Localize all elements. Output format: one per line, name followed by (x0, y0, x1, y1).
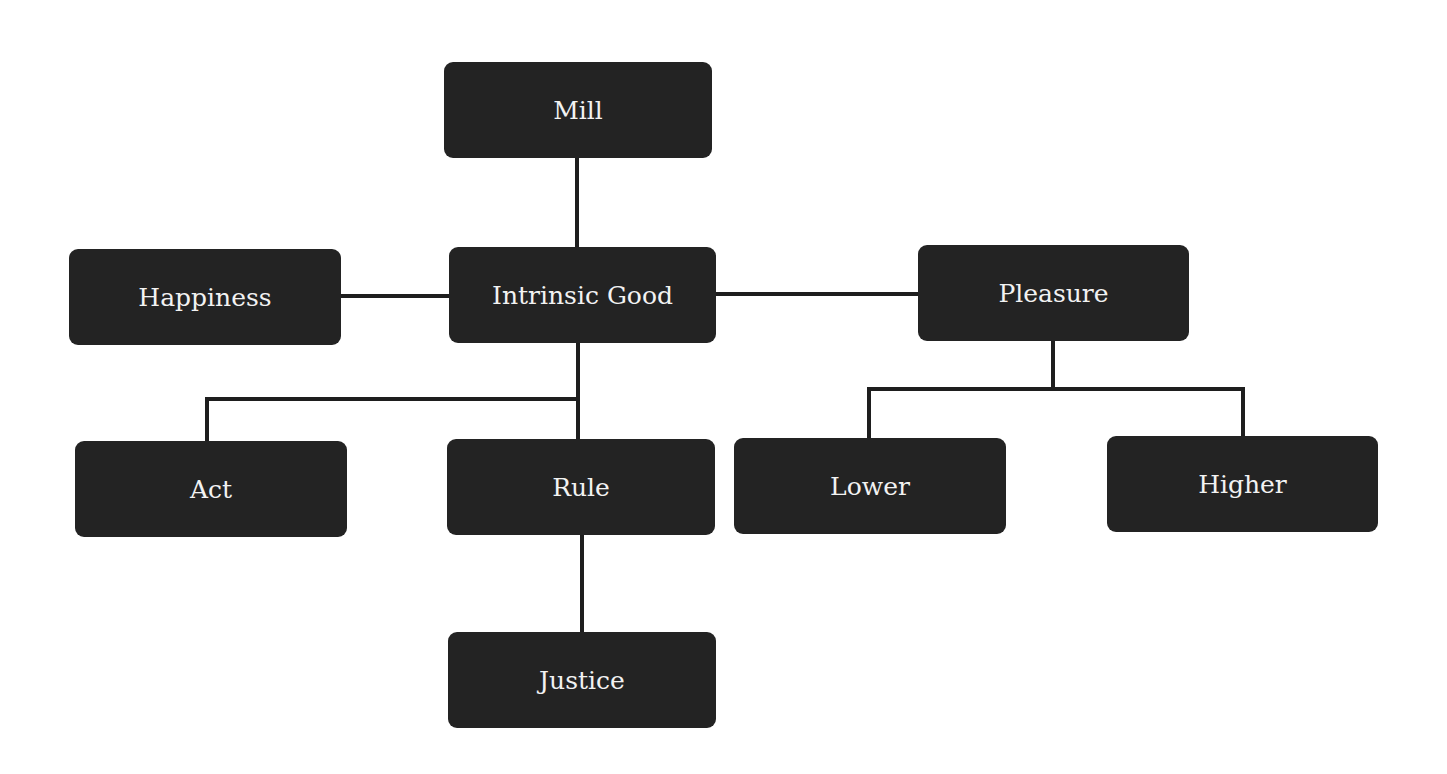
node-mill: Mill (444, 62, 712, 158)
node-intrinsic-good: Intrinsic Good (449, 247, 716, 343)
connector-pleasure-lower (869, 389, 1053, 439)
node-higher: Higher (1107, 436, 1378, 532)
node-rule: Rule (447, 439, 715, 535)
node-label-act: Act (190, 475, 232, 504)
node-label-happiness: Happiness (138, 283, 271, 312)
node-label-rule: Rule (552, 473, 610, 502)
node-label-justice: Justice (539, 666, 625, 695)
node-pleasure: Pleasure (918, 245, 1189, 341)
node-happiness: Happiness (69, 249, 341, 345)
connector-pleasure-higher (1053, 389, 1243, 437)
node-label-higher: Higher (1198, 470, 1287, 499)
node-label-pleasure: Pleasure (998, 279, 1108, 308)
node-justice: Justice (448, 632, 716, 728)
node-lower: Lower (734, 438, 1006, 534)
node-label-intrinsic-good: Intrinsic Good (492, 281, 673, 310)
node-label-lower: Lower (830, 472, 910, 501)
diagram-canvas: Mill Happiness Intrinsic Good Pleasure A… (0, 0, 1447, 774)
node-act: Act (75, 441, 347, 537)
node-label-mill: Mill (553, 96, 603, 125)
connector-intrinsic-good-act (207, 399, 578, 442)
connector-lines (0, 0, 1447, 774)
